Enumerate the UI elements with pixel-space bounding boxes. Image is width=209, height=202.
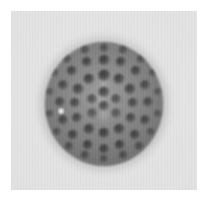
specimen-pit [82, 57, 92, 67]
specimen-pit [46, 88, 54, 96]
specimen-pit [98, 127, 109, 138]
specimen-pit [149, 69, 157, 77]
specimen-pit [131, 66, 141, 76]
specimen-pit [68, 130, 78, 140]
specimen-pit [81, 151, 90, 160]
specimen-pit [154, 110, 162, 118]
specimen-pit [58, 115, 68, 125]
specimen-pit [84, 124, 95, 135]
specimen-pit [58, 80, 68, 90]
specimen-pit [73, 84, 84, 95]
specimen-pit [140, 115, 150, 125]
specimen-pit [111, 94, 121, 104]
specimen-pit [143, 97, 153, 107]
specimen-pit [99, 55, 110, 66]
specimen-pit [46, 110, 54, 118]
specular-highlight [58, 108, 65, 115]
specimen-pit [135, 142, 144, 151]
specimen-pit [70, 98, 80, 108]
specimen-pit [147, 128, 155, 136]
specimen-pit [100, 44, 109, 53]
specimen-pit [128, 98, 138, 108]
specimen-pit [125, 84, 136, 95]
specimen-pit [140, 80, 150, 90]
specimen-pit [116, 57, 126, 67]
specimen-pit [51, 69, 59, 77]
micrograph-image-plate [11, 11, 197, 190]
specimen-pit [87, 94, 97, 104]
specimen-pit [130, 130, 140, 140]
specimen-pit [83, 73, 94, 84]
specimen-pit [115, 140, 125, 150]
specimen-pit [114, 124, 125, 135]
specimen-pit [55, 97, 65, 107]
micrograph-figure [0, 0, 209, 202]
specimen-pit [99, 144, 109, 154]
specimen-pit [119, 46, 128, 55]
specimen-pit [98, 86, 109, 97]
specimen-pit [87, 108, 97, 118]
specimen-pit-layer [45, 42, 163, 166]
specimen-pit [67, 66, 77, 76]
specimen-pit [100, 155, 108, 163]
specimen-pit [81, 46, 90, 55]
specimen-pit [119, 151, 128, 160]
specimen-pit [113, 73, 124, 84]
specimen-pit [137, 55, 146, 64]
specimen-pit [126, 113, 136, 123]
specimen-pit [83, 140, 93, 150]
specimen-pit [53, 128, 61, 136]
specimen-pit [111, 108, 121, 118]
specimen-pit [154, 88, 162, 96]
specimen-pit [98, 69, 110, 81]
specimen-pit [63, 55, 72, 64]
specimen-pit [65, 142, 74, 151]
specimen-pit [72, 113, 82, 123]
